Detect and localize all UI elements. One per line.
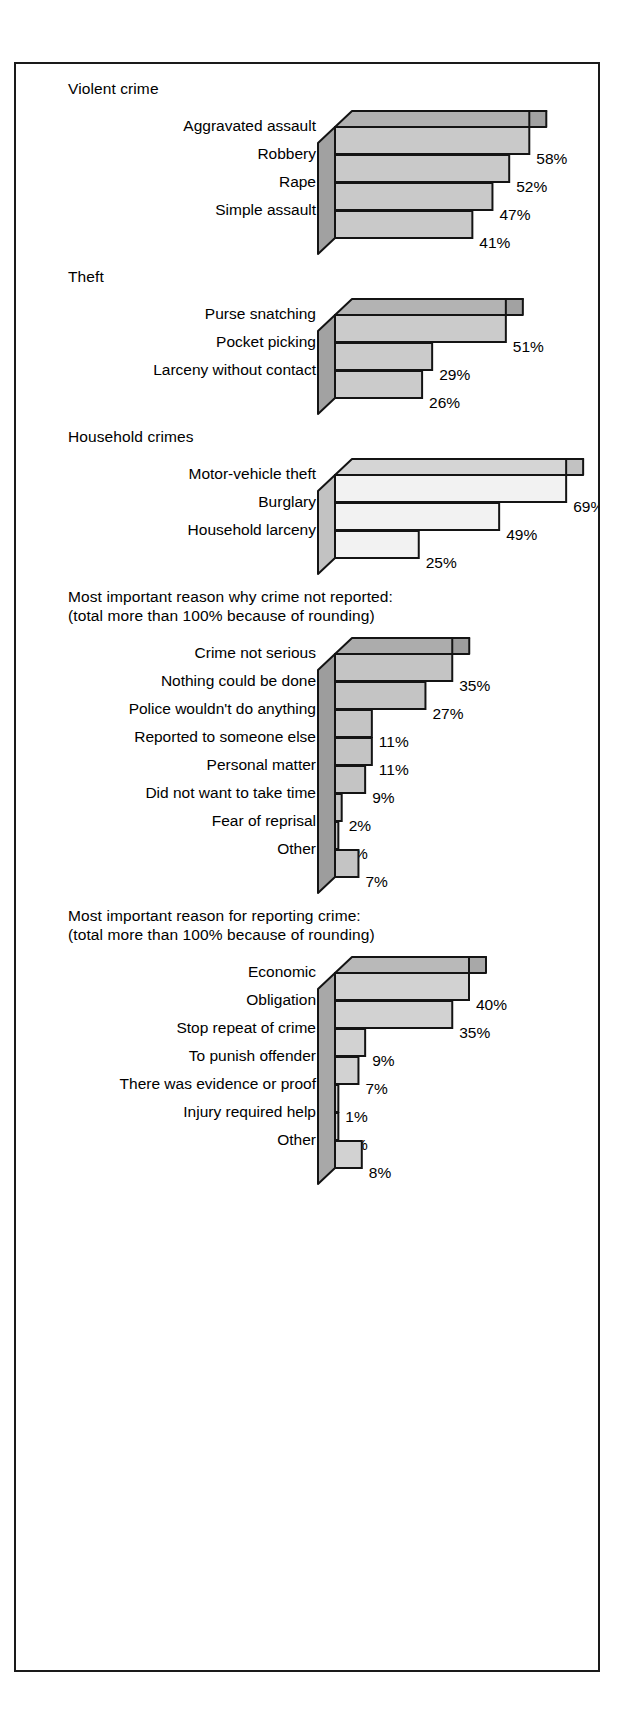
chart-frame: Violent crime58%Aggravated assault52%Rob… <box>14 62 600 1672</box>
bar-value-label: 9% <box>372 789 395 806</box>
bar-category-label: Simple assault <box>215 201 316 218</box>
bar-category-label: Police wouldn't do anything <box>129 700 316 717</box>
bar-category-label: Burglary <box>258 493 316 510</box>
bar-front-face <box>335 211 472 238</box>
bar-front-face <box>335 183 492 210</box>
crime-reporting-bar-chart: Violent crime58%Aggravated assault52%Rob… <box>16 64 598 1670</box>
bar-value-label: 58% <box>536 150 567 167</box>
bar-category-label: Obligation <box>246 991 316 1008</box>
bar-front-face <box>335 475 566 502</box>
bar-category-label: Fear of reprisal <box>212 812 316 829</box>
bar-value-label: 2% <box>349 817 372 834</box>
group-title: Violent crime <box>68 80 159 97</box>
bar-top-face <box>335 957 486 973</box>
bar-right-cap <box>469 957 486 973</box>
bar-value-label: 7% <box>365 873 388 890</box>
bar-top-face <box>335 299 523 315</box>
bar-top-face <box>335 111 546 127</box>
bar-front-face <box>335 155 509 182</box>
bar-front-face <box>335 1029 365 1056</box>
group-title: Most important reason why crime not repo… <box>68 588 393 605</box>
bar-front-face <box>335 1113 338 1140</box>
bar-category-label: Reported to someone else <box>134 728 316 745</box>
bar-top-face <box>335 638 469 654</box>
bar-front-face <box>335 531 419 558</box>
bar-value-label: 35% <box>459 1024 490 1041</box>
bar-value-label: 35% <box>459 677 490 694</box>
bar-front-face <box>335 1141 362 1168</box>
bar-front-face <box>335 315 506 342</box>
bar-value-label: 51% <box>513 338 544 355</box>
bar-category-label: Stop repeat of crime <box>176 1019 316 1036</box>
bar-front-face <box>335 1057 358 1084</box>
group-title: Theft <box>68 268 104 285</box>
bar-front-face <box>335 503 499 530</box>
bar-value-label: 52% <box>516 178 547 195</box>
bar-value-label: 9% <box>372 1052 395 1069</box>
bar-stack-side-face <box>318 654 335 893</box>
group-title: Household crimes <box>68 428 194 445</box>
bar-front-face <box>335 822 338 849</box>
bar-category-label: Crime not serious <box>195 644 317 661</box>
bar-value-label: 7% <box>365 1080 388 1097</box>
bar-front-face <box>335 710 372 737</box>
bar-category-label: There was evidence or proof <box>120 1075 317 1092</box>
bar-right-cap <box>452 638 469 654</box>
bar-value-label: 11% <box>379 761 409 778</box>
bar-value-label: 1% <box>345 1108 368 1125</box>
bar-front-face <box>335 127 529 154</box>
bar-stack-side-face <box>318 475 335 574</box>
bar-value-label: 40% <box>476 996 507 1013</box>
bar-stack-side-face <box>318 127 335 254</box>
bar-front-face <box>335 973 469 1000</box>
group-subtitle: (total more than 100% because of roundin… <box>68 607 375 624</box>
bar-category-label: Personal matter <box>207 756 316 773</box>
bar-front-face <box>335 766 365 793</box>
bar-category-label: Household larceny <box>188 521 317 538</box>
bar-value-label: 8% <box>369 1164 392 1181</box>
bar-category-label: Did not want to take time <box>145 784 316 801</box>
bar-category-label: Nothing could be done <box>161 672 316 689</box>
bar-category-label: Rape <box>279 173 316 190</box>
bar-front-face <box>335 850 358 877</box>
bar-value-label: 26% <box>429 394 460 411</box>
group-subtitle: (total more than 100% because of roundin… <box>68 926 375 943</box>
bar-value-label: 27% <box>432 705 463 722</box>
bar-category-label: Purse snatching <box>205 305 316 322</box>
bar-front-face <box>335 654 452 681</box>
bar-category-label: Other <box>277 1131 316 1148</box>
bar-front-face <box>335 343 432 370</box>
bar-front-face <box>335 682 425 709</box>
bar-value-label: 25% <box>426 554 457 571</box>
bar-category-label: To punish offender <box>189 1047 316 1064</box>
bar-value-label: 49% <box>506 526 537 543</box>
bar-category-label: Motor-vehicle theft <box>189 465 317 482</box>
bar-value-label: 41% <box>479 234 510 251</box>
bar-category-label: Other <box>277 840 316 857</box>
bar-value-label: 47% <box>499 206 530 223</box>
bar-front-face <box>335 794 342 821</box>
bar-right-cap <box>529 111 546 127</box>
bar-category-label: Economic <box>248 963 316 980</box>
bar-front-face <box>335 371 422 398</box>
bar-right-cap <box>506 299 523 315</box>
bar-category-label: Pocket picking <box>216 333 316 350</box>
bar-front-face <box>335 738 372 765</box>
group-title: Most important reason for reporting crim… <box>68 907 361 924</box>
bar-category-label: Larceny without contact <box>153 361 317 378</box>
bar-front-face <box>335 1085 338 1112</box>
bar-value-label: 11% <box>379 733 409 750</box>
bar-stack-side-face <box>318 315 335 414</box>
bar-category-label: Injury required help <box>183 1103 316 1120</box>
bar-front-face <box>335 1001 452 1028</box>
bar-top-face <box>335 459 583 475</box>
bar-value-label: 29% <box>439 366 470 383</box>
bar-value-label: 69% <box>573 498 598 515</box>
bar-category-label: Robbery <box>257 145 316 162</box>
bar-stack-side-face <box>318 973 335 1184</box>
bar-category-label: Aggravated assault <box>183 117 316 134</box>
bar-right-cap <box>566 459 583 475</box>
